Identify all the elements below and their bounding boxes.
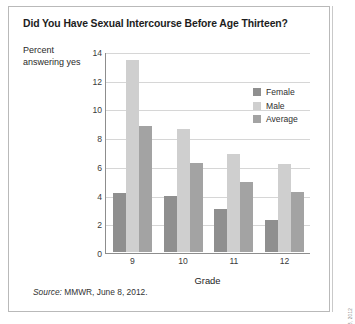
side-source-strip: Source: MMWR, JUNE 8, 2012 xyxy=(332,6,354,312)
bar-female-grade-11[interactable] xyxy=(214,209,227,252)
chart-figure: Did You Have Sexual Intercourse Before A… xyxy=(0,0,355,324)
legend-item-male[interactable]: Male xyxy=(253,101,298,111)
chart-legend: FemaleMaleAverage xyxy=(253,87,298,124)
side-source-text: Source: MMWR, JUNE 8, 2012 xyxy=(348,308,353,324)
source-note-lead: Source: xyxy=(33,287,62,297)
y-axis-tick-label: 10 xyxy=(92,105,102,115)
bar-female-grade-9[interactable] xyxy=(113,193,126,252)
bar-group-grade-9: 9 xyxy=(113,53,152,252)
bar-group-grade-12: 12 xyxy=(265,53,304,252)
chart-card: Did You Have Sexual Intercourse Before A… xyxy=(8,6,330,312)
bar-groups: 9101112 xyxy=(107,53,310,252)
bar-average-grade-10[interactable] xyxy=(190,163,203,252)
y-axis-tick-label: 14 xyxy=(92,48,102,58)
bar-average-grade-9[interactable] xyxy=(139,126,152,252)
legend-label: Female xyxy=(266,87,295,97)
y-axis-tick-label: 2 xyxy=(97,220,102,230)
bar-average-grade-11[interactable] xyxy=(240,182,253,252)
bar-male-grade-11[interactable] xyxy=(227,154,240,252)
plot-area: 14121086420 9101112 xyxy=(105,53,310,254)
x-axis-tick-label: 11 xyxy=(229,256,238,266)
x-axis-tick-label: 9 xyxy=(130,256,135,266)
bar-male-grade-12[interactable] xyxy=(278,164,291,252)
bar-male-grade-10[interactable] xyxy=(177,129,190,252)
legend-label: Male xyxy=(266,101,285,111)
x-axis-tick-label: 10 xyxy=(178,256,188,266)
bar-group-grade-10: 10 xyxy=(164,53,203,252)
source-note-rest: MMWR, June 8, 2012. xyxy=(62,287,148,297)
bar-average-grade-12[interactable] xyxy=(291,192,304,252)
y-axis-tick-label: 8 xyxy=(97,134,102,144)
x-axis-tick-label: 12 xyxy=(280,256,290,266)
legend-label: Average xyxy=(266,114,298,124)
source-note: Source: MMWR, June 8, 2012. xyxy=(33,287,148,297)
y-axis-tick-label: 4 xyxy=(97,192,102,202)
bar-male-grade-9[interactable] xyxy=(126,60,139,252)
legend-item-female[interactable]: Female xyxy=(253,87,298,97)
plot-frame: 14121086420 9101112 xyxy=(105,53,310,254)
y-axis-tick-label: 12 xyxy=(92,77,102,87)
y-axis-tick-label: 6 xyxy=(97,163,102,173)
legend-swatch-icon xyxy=(253,88,261,96)
bar-female-grade-10[interactable] xyxy=(164,196,177,252)
x-axis-label: Grade xyxy=(105,275,310,286)
legend-swatch-icon xyxy=(253,102,261,110)
legend-item-average[interactable]: Average xyxy=(253,114,298,124)
bar-female-grade-12[interactable] xyxy=(265,220,278,252)
legend-swatch-icon xyxy=(253,115,261,123)
y-axis-label: Percent answering yes xyxy=(23,45,87,68)
chart-title: Did You Have Sexual Intercourse Before A… xyxy=(23,18,288,29)
y-axis-tick-label: 0 xyxy=(97,249,102,259)
bar-group-grade-11: 11 xyxy=(214,53,253,252)
